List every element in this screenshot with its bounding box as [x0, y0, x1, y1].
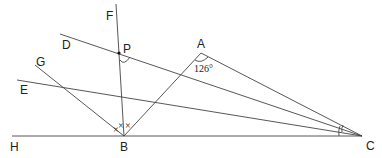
mark-b-2: × [118, 120, 124, 131]
line-gb [35, 65, 124, 136]
geometry-diagram: × × × F D P A 126° G E H B C [0, 0, 382, 158]
line-ec [17, 80, 362, 136]
label-h: H [10, 140, 19, 154]
label-f: F [106, 9, 113, 23]
label-b: B [120, 140, 128, 154]
label-c: C [366, 139, 375, 153]
line-bf [116, 4, 124, 136]
label-p: P [123, 42, 131, 56]
angle-label-126: 126° [194, 63, 213, 74]
mark-b-3: × [125, 120, 131, 131]
label-d: D [62, 38, 71, 52]
line-ba [124, 53, 201, 136]
label-g: G [36, 55, 45, 69]
angle-arc-p [120, 57, 130, 62]
label-a: A [197, 37, 205, 51]
point-p-dot [117, 51, 120, 54]
angle-arc-c-1 [339, 126, 340, 136]
label-e: E [20, 83, 28, 97]
line-ac [201, 53, 362, 136]
